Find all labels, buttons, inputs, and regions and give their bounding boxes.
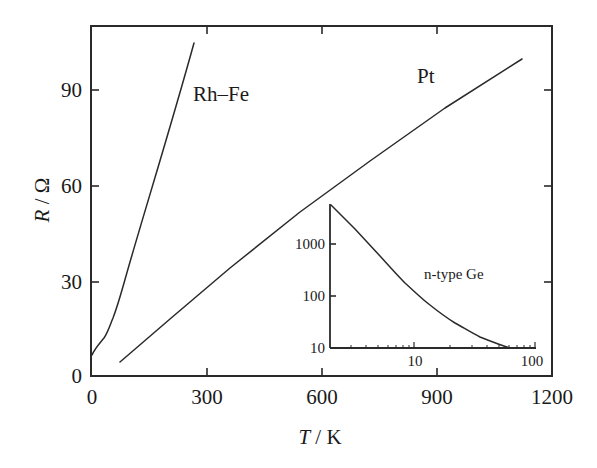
- x-tick-label-0: 0: [87, 385, 98, 409]
- inset-chart: 1000 100 10 10 100 n-type Ge: [295, 204, 543, 369]
- y-tick-label-30: 30: [61, 270, 82, 294]
- series-pt-line: [120, 59, 522, 362]
- x-tick-label-300: 300: [191, 385, 223, 409]
- series-rhfe-label: Rh–Fe: [193, 82, 249, 106]
- series-ge-label: n-type Ge: [424, 266, 484, 282]
- resistance-temperature-chart: 90 60 30 0 0 300 600 900 1200 T / K R / …: [0, 0, 597, 468]
- series-rhfe-line: [92, 43, 194, 355]
- x-tick-label-1200: 1200: [531, 385, 573, 409]
- y-ticks: [91, 90, 552, 282]
- x-axis-label: T / K: [298, 425, 341, 449]
- inset-y-tick-label-10: 10: [310, 340, 325, 356]
- y-tick-label-90: 90: [61, 78, 82, 102]
- inset-y-tick-label-1000: 1000: [295, 236, 325, 252]
- inset-x-tick-label-10: 10: [408, 353, 423, 369]
- inset-y-tick-label-100: 100: [303, 288, 326, 304]
- x-tick-label-900: 900: [421, 385, 453, 409]
- y-tick-label-60: 60: [61, 174, 82, 198]
- x-ticks: [207, 26, 437, 376]
- y-tick-label-0: 0: [72, 364, 83, 388]
- plot-frame: [91, 26, 552, 376]
- x-tick-label-600: 600: [306, 385, 338, 409]
- series-pt-label: Pt: [417, 64, 435, 88]
- y-axis-label: R / Ω: [30, 178, 54, 224]
- inset-x-tick-label-100: 100: [521, 353, 544, 369]
